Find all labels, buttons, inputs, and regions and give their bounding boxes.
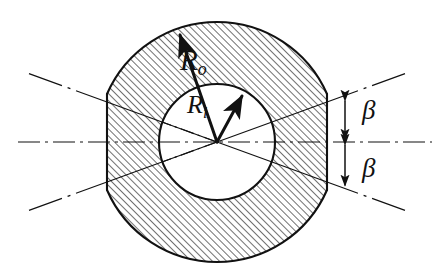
beta-bottom-label: β bbox=[362, 155, 375, 182]
inner-radius-label: Ri bbox=[187, 92, 207, 121]
outer-radius-label-base: R bbox=[180, 44, 198, 76]
hatched-annulus-fill bbox=[0, 0, 447, 270]
annulus-diagram-svg bbox=[0, 0, 447, 270]
outer-radius-label: Ro bbox=[180, 46, 207, 78]
inner-radius-label-subscript: i bbox=[203, 104, 207, 121]
figure-canvas: Ro Ri β β bbox=[0, 0, 447, 270]
inner-radius-label-base: R bbox=[187, 90, 203, 119]
beta-top-label: β bbox=[362, 97, 375, 124]
outer-radius-label-subscript: o bbox=[198, 59, 207, 79]
